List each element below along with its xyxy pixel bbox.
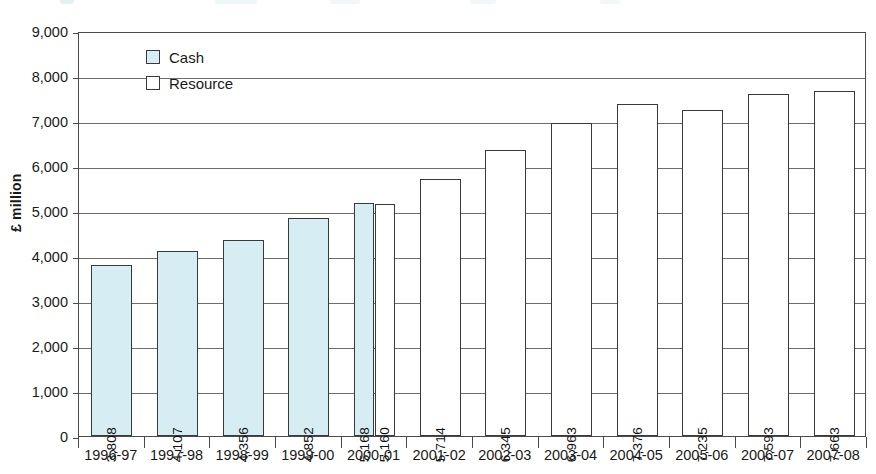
x-tick-mark <box>538 437 539 448</box>
bar[interactable]: 4,356 <box>223 240 264 436</box>
x-tick-mark <box>341 437 342 448</box>
y-tick-label: 1,000 <box>0 384 68 400</box>
bar[interactable]: 5,714 <box>420 179 461 436</box>
x-tick-label: 2002-03 <box>478 447 531 463</box>
legend-swatch-cash-icon <box>146 50 160 64</box>
bar[interactable]: 7,663 <box>814 91 855 436</box>
x-tick-label: 2006-07 <box>741 447 794 463</box>
bar[interactable]: 5,168 <box>354 203 374 436</box>
x-tick-mark <box>735 437 736 448</box>
x-tick-mark <box>406 437 407 448</box>
x-tick-label: 2007-08 <box>807 447 860 463</box>
x-tick-label: 1997-98 <box>150 447 203 463</box>
x-tick-label: 2000-01 <box>347 447 400 463</box>
bar[interactable]: 7,593 <box>748 94 789 436</box>
y-tick-label: 3,000 <box>0 294 68 310</box>
x-tick-label: 2001-02 <box>413 447 466 463</box>
bar-chart: £ million 9,0008,0007,0006,0005,0004,000… <box>0 0 876 474</box>
y-tick-label: 5,000 <box>0 204 68 220</box>
bar[interactable]: 6,345 <box>485 150 526 436</box>
bar[interactable]: 4,852 <box>288 218 329 436</box>
legend: Cash Resource <box>146 44 233 96</box>
y-axis-title: £ million <box>8 173 24 232</box>
x-tick-mark <box>275 437 276 448</box>
x-tick-mark <box>866 437 867 448</box>
y-tick-label: 7,000 <box>0 114 68 130</box>
y-tick-label: 9,000 <box>0 24 68 40</box>
bar[interactable]: 7,235 <box>682 110 723 436</box>
x-tick-mark <box>603 437 604 448</box>
y-tick-label: 2,000 <box>0 339 68 355</box>
x-tick-mark <box>669 437 670 448</box>
x-tick-mark <box>144 437 145 448</box>
legend-label-resource: Resource <box>169 75 233 92</box>
legend-item-resource[interactable]: Resource <box>146 70 233 96</box>
x-tick-mark <box>209 437 210 448</box>
y-tick-label: 0 <box>0 429 68 445</box>
bar[interactable]: 6,963 <box>551 123 592 436</box>
bar[interactable]: 7,376 <box>617 104 658 436</box>
y-tick-label: 6,000 <box>0 159 68 175</box>
y-tick-label: 4,000 <box>0 249 68 265</box>
x-tick-mark <box>472 437 473 448</box>
y-tick-label: 8,000 <box>0 69 68 85</box>
x-tick-label: 1998-99 <box>216 447 269 463</box>
bar[interactable]: 5,160 <box>375 204 395 436</box>
x-tick-label: 1999-00 <box>281 447 334 463</box>
bar[interactable]: 4,107 <box>157 251 198 436</box>
x-tick-label: 2003-04 <box>544 447 597 463</box>
legend-swatch-resource-icon <box>146 76 160 90</box>
x-tick-mark <box>800 437 801 448</box>
x-tick-label: 2004-05 <box>610 447 663 463</box>
x-tick-label: 2005-06 <box>675 447 728 463</box>
legend-label-cash: Cash <box>169 49 204 66</box>
bar[interactable]: 3,808 <box>91 265 132 436</box>
x-tick-mark <box>78 437 79 448</box>
x-tick-label: 1996-97 <box>84 447 137 463</box>
legend-item-cash[interactable]: Cash <box>146 44 233 70</box>
scan-artifact-strip <box>0 0 876 12</box>
